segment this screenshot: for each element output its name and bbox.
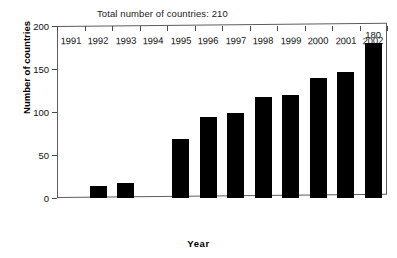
- x-tick-mark: [222, 26, 223, 31]
- x-tick-mark: [387, 26, 388, 31]
- y-tick-label: 0: [44, 193, 49, 204]
- y-tick-label: 100: [33, 107, 49, 118]
- x-tick-label: 1992: [88, 35, 109, 47]
- bar-2001: [337, 72, 354, 198]
- x-tick-mark: [250, 26, 251, 31]
- x-tick-label: 2001: [335, 35, 356, 47]
- x-tick-mark: [332, 26, 333, 31]
- x-tick-mark: [360, 26, 361, 31]
- bar-1997: [227, 113, 244, 198]
- y-tick-mark: [52, 198, 57, 199]
- bar-1999: [282, 95, 299, 198]
- y-tick-label: 50: [38, 150, 49, 161]
- x-tick-mark: [85, 26, 86, 31]
- x-tick-label: 1995: [170, 35, 191, 47]
- y-axis-title: Number of countries: [21, 0, 32, 138]
- bar-2002: 180: [365, 43, 382, 198]
- x-tick-mark: [112, 26, 113, 31]
- x-tick-label: 2000: [308, 35, 329, 47]
- x-tick-label: 1999: [280, 35, 301, 47]
- bar-1998: [255, 97, 272, 198]
- x-tick-label: 1996: [198, 35, 219, 47]
- x-tick-label: 1998: [253, 35, 274, 47]
- bar-value-label: 180: [365, 29, 381, 40]
- x-tick-mark: [57, 26, 58, 31]
- bar-1995: [172, 139, 189, 198]
- plot-area: 050100150200 199119921993199419951996199…: [57, 26, 387, 198]
- x-tick-label: 1991: [60, 35, 81, 47]
- x-tick-mark: [305, 26, 306, 31]
- x-axis-title: Year: [0, 238, 397, 249]
- bar-1993: [117, 183, 134, 198]
- bar-2000: [310, 78, 327, 198]
- y-tick-mark: [52, 155, 57, 156]
- x-tick-mark: [195, 26, 196, 31]
- y-tick-mark: [52, 69, 57, 70]
- bar-1992: [90, 186, 107, 198]
- x-tick-label: 1993: [115, 35, 136, 47]
- x-tick-label: 1997: [225, 35, 246, 47]
- bar-1996: [200, 117, 217, 198]
- x-tick-mark: [277, 26, 278, 31]
- x-tick-mark: [167, 26, 168, 31]
- y-tick-label: 200: [33, 21, 49, 32]
- x-tick-mark: [140, 26, 141, 31]
- y-tick-mark: [52, 112, 57, 113]
- x-tick-label: 1994: [143, 35, 164, 47]
- chart-figure: Total number of countries: 210 Number of…: [0, 0, 397, 258]
- y-tick-label: 150: [33, 64, 49, 75]
- chart-title: Total number of countries: 210: [97, 8, 228, 19]
